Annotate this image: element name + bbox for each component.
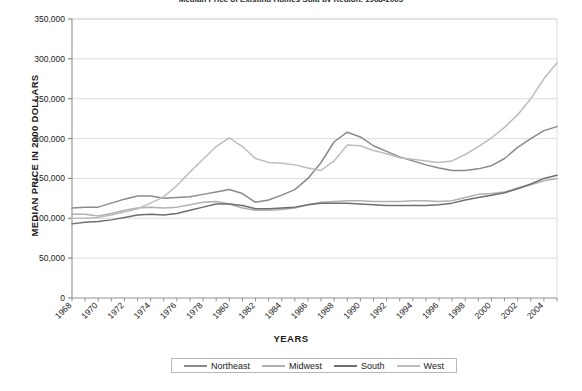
y-axis-tick-label: 100,000 (34, 213, 65, 223)
legend-item-west: West (397, 361, 444, 371)
legend-swatch-south (334, 365, 357, 367)
y-axis-tick-label: 350,000 (34, 14, 65, 24)
chart-container: Median Price of Existing Homes Sold by R… (0, 0, 582, 391)
legend-item-northeast: Northeast (184, 361, 250, 371)
x-axis-tick-label: 1994 (394, 300, 415, 321)
x-axis-tick-label: 1984 (263, 300, 284, 321)
x-axis-tick-label: 2000 (472, 300, 493, 321)
x-axis-tick-label: 1998 (446, 300, 467, 321)
chart-legend: Northeast Midwest South West (171, 358, 457, 373)
legend-swatch-west (397, 365, 420, 367)
y-axis-tick-label: 250,000 (34, 94, 65, 104)
series-line-south (72, 175, 557, 224)
x-axis-tick-label: 2002 (499, 300, 520, 321)
x-axis-tick-label: 1980 (210, 300, 231, 321)
legend-label-south: South (361, 361, 385, 371)
legend-label-northeast: Northeast (211, 361, 250, 371)
legend-swatch-northeast (184, 365, 207, 367)
legend-label-west: West (424, 361, 444, 371)
legend-item-midwest: Midwest (262, 361, 322, 371)
y-axis-tick-label: 200,000 (34, 134, 65, 144)
legend-swatch-midwest (262, 365, 285, 367)
x-axis-tick-label: 1986 (289, 300, 310, 321)
legend-item-south: South (334, 361, 385, 371)
x-axis-tick-label: 1990 (341, 300, 362, 321)
x-axis-tick-label: 2004 (525, 300, 546, 321)
chart-plot: 050,000100,000150,000200,000250,000300,0… (0, 0, 582, 391)
x-axis-tick-label: 1970 (79, 300, 100, 321)
x-axis-tick-label: 1996 (420, 300, 441, 321)
x-axis-tick-label: 1978 (184, 300, 205, 321)
y-axis-tick-label: 150,000 (34, 173, 65, 183)
x-axis-tick-label: 1976 (158, 300, 179, 321)
legend-label-midwest: Midwest (289, 361, 322, 371)
y-axis-tick-label: 50,000 (39, 253, 65, 263)
x-axis-tick-label: 1988 (315, 300, 336, 321)
x-axis-tick-label: 1992 (368, 300, 389, 321)
x-axis-tick-label: 1974 (132, 300, 153, 321)
y-axis-tick-label: 300,000 (34, 54, 65, 64)
x-axis-tick-label: 1972 (105, 300, 126, 321)
series-line-west (72, 63, 557, 218)
x-axis-tick-label: 1968 (53, 300, 74, 321)
x-axis-tick-label: 1982 (236, 300, 257, 321)
